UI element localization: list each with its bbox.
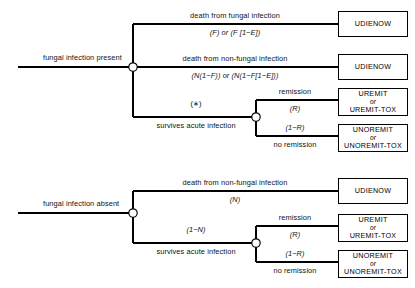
outcome-text-line2: UREMIT-TOX [350, 232, 397, 240]
outcome-text-line1: UREMIT [358, 90, 387, 98]
branch-label-death-nonfungal-absent: death from non-fungal infection [183, 179, 288, 186]
chance-node-survives-present [252, 113, 260, 121]
outcome-text-line1: UREMIT [358, 216, 387, 224]
outcome-box-uremit-absent: UREMIT or UREMIT-TOX [338, 214, 408, 242]
outcome-box-udienow-nonfungal-death: UDIENOW [338, 54, 408, 80]
outcome-text: UDIENOW [355, 187, 392, 195]
root-label-absent: fungal infection absent [43, 200, 119, 207]
branch-probability-death-nonfungal: (N(1−F)) or (N(1−F[1−E])) [192, 72, 279, 79]
outcome-box-udienow-fungal-death: UDIENOW [338, 11, 408, 37]
branch-probability-remission-present: (R) [290, 105, 301, 112]
root-label-present: fungal infection present [43, 54, 122, 61]
branch-label-no-remission-present: no remission [273, 141, 316, 148]
outcome-text: UDIENOW [355, 20, 392, 28]
outcome-text-line2: UREMIT-TOX [350, 106, 397, 114]
outcome-text-line1: UNOREMIT [353, 126, 393, 134]
branch-probability-no-remission-absent: (1−R) [285, 250, 304, 257]
branch-probability-survives-absent: (1−N) [186, 226, 205, 233]
branch-label-survives-absent: survives acute infection [156, 248, 235, 255]
branch-label-survives-present: survives acute infection [156, 122, 235, 129]
chance-node-absent [129, 209, 137, 217]
branch-probability-no-remission-present: (1−R) [285, 124, 304, 131]
outcome-text-line1: UNOREMIT [353, 252, 393, 260]
branch-label-death-nonfungal: death from non-fungal infection [183, 55, 288, 62]
outcome-text: UDIENOW [355, 63, 392, 71]
outcome-text-line2: UNOREMIT-TOX [344, 142, 402, 150]
branch-label-remission-absent: remission [279, 214, 312, 221]
outcome-text-line2: UNOREMIT-TOX [344, 268, 402, 276]
chance-node-present [129, 63, 137, 71]
branch-label-death-fungal: death from fungal infection [190, 12, 280, 19]
outcome-box-udienow-absent: UDIENOW [338, 178, 408, 204]
outcome-box-uremit-present: UREMIT or UREMIT-TOX [338, 88, 408, 116]
branch-probability-death-nonfungal-absent: (N) [230, 196, 241, 203]
outcome-box-unoremit-absent: UNOREMIT or UNOREMIT-TOX [338, 250, 408, 278]
branch-probability-survives-present: (∗) [190, 100, 201, 107]
branch-label-no-remission-absent: no remission [273, 267, 316, 274]
branch-probability-remission-absent: (R) [290, 231, 301, 238]
chance-node-survives-absent [252, 239, 260, 247]
branch-probability-death-fungal: (F) or (F [1−E]) [210, 29, 261, 36]
outcome-box-unoremit-present: UNOREMIT or UNOREMIT-TOX [338, 124, 408, 152]
branch-label-remission-present: remission [279, 88, 312, 95]
